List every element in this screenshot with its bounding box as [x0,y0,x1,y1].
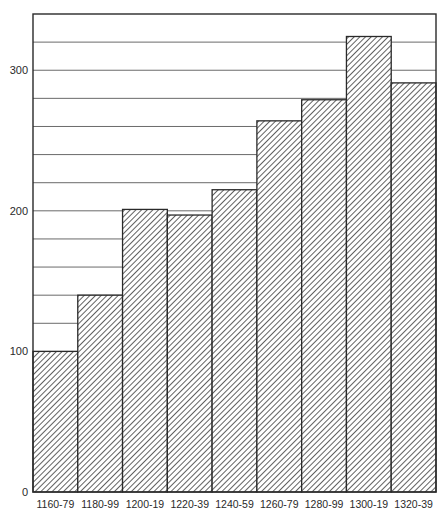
y-tick-label: 300 [10,64,28,76]
y-tick-label: 100 [10,345,28,357]
y-axis-ticks: 0100200300 [10,64,28,498]
y-tick-label: 200 [10,205,28,217]
bar-1320-39 [391,83,436,492]
x-tick-label: 1280-99 [305,498,344,510]
bar-1240-59 [212,190,257,492]
x-tick-label: 1260-79 [260,498,299,510]
x-tick-label: 1180-99 [81,498,119,510]
x-tick-label: 1200-19 [126,498,165,510]
bar-1280-99 [302,100,347,492]
bar-1200-19 [123,209,168,492]
bar-1160-79 [33,351,78,492]
x-tick-label: 1160-79 [37,498,75,510]
bar-1260-79 [257,121,302,492]
bar-1180-99 [78,295,123,492]
bar-1220-39 [167,215,212,492]
histogram-chart: 0100200300 1160-791180-991200-191220-391… [0,0,447,514]
y-tick-label: 0 [22,486,28,498]
x-tick-label: 1220-39 [170,498,209,510]
x-tick-label: 1240-59 [215,498,254,510]
x-tick-label: 1300-19 [350,498,389,510]
x-axis-ticks: 1160-791180-991200-191220-391240-591260-… [37,498,434,510]
bars [33,36,436,492]
bar-1300-19 [346,36,391,492]
x-tick-label: 1320-39 [394,498,433,510]
